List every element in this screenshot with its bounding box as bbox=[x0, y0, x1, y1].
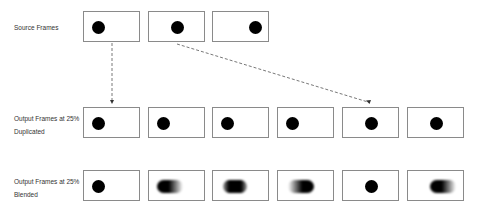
arrowhead-icon bbox=[110, 100, 114, 104]
arrow-source2-to-dup5 bbox=[177, 44, 368, 102]
mapping-arrows bbox=[0, 0, 477, 212]
arrowhead-icon bbox=[366, 100, 371, 104]
